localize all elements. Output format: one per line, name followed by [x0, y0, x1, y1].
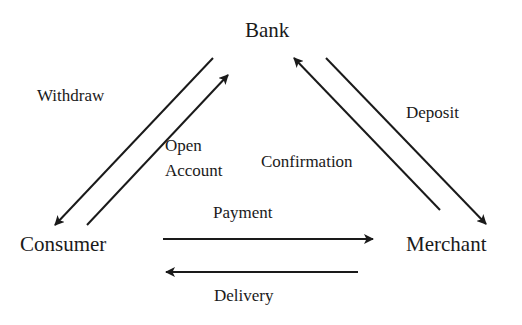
consumer-node: Consumer: [20, 234, 106, 255]
withdraw-label: Withdraw: [37, 87, 104, 104]
open-account-label-line1: Open: [165, 137, 202, 154]
deposit-arrow: [326, 58, 486, 224]
deposit-label: Deposit: [406, 104, 459, 121]
payment-label: Payment: [213, 204, 273, 221]
confirmation-arrow: [294, 58, 440, 210]
payment-flow-diagram: Bank Consumer Merchant Withdraw Open Acc…: [0, 0, 522, 325]
confirmation-label: Confirmation: [261, 153, 353, 170]
delivery-label: Delivery: [214, 287, 273, 304]
open-account-label-line2: Account: [165, 162, 223, 179]
open-account-arrow: [87, 75, 228, 225]
merchant-node: Merchant: [406, 234, 486, 255]
bank-node: Bank: [245, 20, 289, 41]
